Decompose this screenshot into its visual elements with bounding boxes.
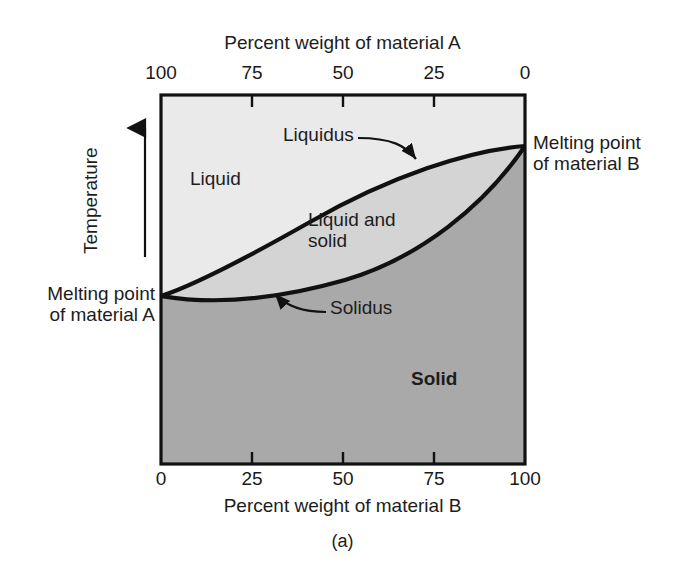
- plot-regions: [161, 95, 525, 464]
- melting-point-b-line2: of material B: [533, 153, 640, 174]
- liquid-and-solid-region-label: Liquid andsolid: [308, 209, 396, 252]
- phase-diagram-figure: Percent weight of material A 100 75 50 2…: [0, 0, 685, 575]
- two-phase-label-line1: Liquid and: [308, 209, 396, 230]
- two-phase-label-line2: solid: [308, 230, 347, 251]
- melting-point-b-label: Melting pointof material B: [533, 132, 683, 175]
- melting-point-b-line1: Melting point: [533, 132, 641, 153]
- melting-point-a-line2: of material A: [49, 304, 155, 325]
- solidus-label: Solidus: [330, 297, 392, 318]
- melting-point-a-line1: Melting point: [47, 283, 155, 304]
- melting-point-a-label: Melting pointof material A: [18, 283, 155, 326]
- solid-region-label: Solid: [411, 368, 457, 389]
- liquid-region-label: Liquid: [190, 168, 241, 189]
- liquidus-label: Liquidus: [283, 124, 354, 145]
